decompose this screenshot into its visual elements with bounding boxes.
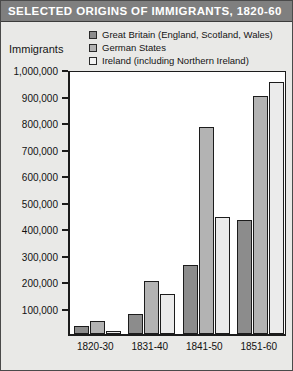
x-axis-tick-label: 1831-40 [131, 341, 168, 352]
bar-ireland-1820-30 [106, 331, 121, 334]
y-axis-tick-label: 700,000 [22, 145, 58, 156]
legend-swatch-great-britain [89, 31, 97, 39]
legend-label-german-states: German States [102, 42, 166, 53]
bar-great-britain-1820-30 [74, 326, 89, 334]
x-axis-tick-label: 1851-60 [240, 341, 277, 352]
legend-item-german-states: German States [89, 42, 273, 53]
bar-german-states-1851-60 [253, 96, 268, 335]
chart-legend: Great Britain (England, Scotland, Wales)… [89, 29, 273, 66]
chart-title-bar: SELECTED ORIGINS OF IMMIGRANTS, 1820-60 [1, 1, 293, 22]
legend-item-great-britain: Great Britain (England, Scotland, Wales) [89, 29, 273, 40]
legend-item-ireland: Ireland (including Northern Ireland) [89, 55, 273, 66]
y-axis-tick-label: 300,000 [22, 251, 58, 262]
bar-german-states-1831-40 [144, 281, 159, 334]
legend-label-great-britain: Great Britain (England, Scotland, Wales) [102, 29, 273, 40]
y-axis-tick-label: 200,000 [22, 278, 58, 289]
bar-ireland-1851-60 [269, 82, 284, 334]
y-axis-tick-label: 800,000 [22, 119, 58, 130]
bar-ireland-1841-50 [215, 217, 230, 334]
y-axis-tick-label: 400,000 [22, 225, 58, 236]
bar-german-states-1820-30 [90, 321, 105, 334]
y-axis-tick-label: 100,000 [22, 304, 58, 315]
x-axis-tick-label: 1820-30 [77, 341, 114, 352]
x-axis-tick-label: 1841-50 [186, 341, 223, 352]
legend-swatch-ireland [89, 57, 97, 65]
bar-great-britain-1841-50 [183, 265, 198, 334]
bar-group-1820-30 [74, 72, 121, 334]
bar-german-states-1841-50 [199, 127, 214, 334]
chart-figure: SELECTED ORIGINS OF IMMIGRANTS, 1820-60 … [0, 0, 293, 371]
y-axis-tick-label: 600,000 [22, 172, 58, 183]
plot-frame [68, 71, 286, 336]
bar-group-1841-50 [183, 72, 230, 334]
y-axis-tick-label: 1,000,000 [14, 66, 59, 77]
y-axis-tick-label: 500,000 [22, 198, 58, 209]
legend-label-ireland: Ireland (including Northern Ireland) [102, 55, 249, 66]
plot-area [70, 72, 285, 334]
bar-group-1851-60 [237, 72, 284, 334]
y-axis-title: Immigrants [9, 43, 63, 55]
bar-great-britain-1851-60 [237, 220, 252, 334]
bar-ireland-1831-40 [160, 294, 175, 334]
bar-great-britain-1831-40 [128, 314, 143, 334]
bar-group-1831-40 [128, 72, 175, 334]
chart-title: SELECTED ORIGINS OF IMMIGRANTS, 1820-60 [1, 5, 282, 17]
y-axis-tick-label: 900,000 [22, 92, 58, 103]
legend-swatch-german-states [89, 44, 97, 52]
